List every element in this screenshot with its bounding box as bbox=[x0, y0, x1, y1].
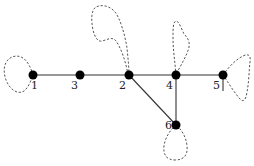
graph-diagram: 1 3 2 4 5 6 bbox=[0, 0, 254, 166]
loop-node-2 bbox=[92, 6, 129, 75]
node-label-6: 6 bbox=[165, 120, 172, 131]
node-label-5: 5 bbox=[213, 80, 220, 91]
loop-node-4 bbox=[173, 21, 189, 75]
node-label-1: 1 bbox=[31, 80, 38, 91]
loop-node-5 bbox=[223, 55, 250, 101]
node-label-3: 3 bbox=[71, 80, 78, 91]
node-label-2: 2 bbox=[119, 80, 126, 91]
node-6 bbox=[172, 121, 181, 130]
node-label-4: 4 bbox=[166, 80, 173, 91]
